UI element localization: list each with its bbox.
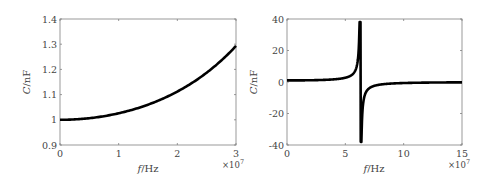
x-tick-label: 0 <box>57 148 63 159</box>
left-data-line <box>60 46 236 120</box>
left-y-axis-label: C/nF <box>21 70 32 94</box>
right-plot: 051015 -40-2002040 f/Hz C/nF ×107 <box>248 14 470 175</box>
y-tick-label: -20 <box>269 108 284 119</box>
left-y-ticks: 0.911.11.21.31.4 <box>42 14 236 151</box>
y-tick-label: 1.4 <box>42 14 57 25</box>
right-x-ticks: 051015 <box>284 19 468 159</box>
x-tick-label: 5 <box>342 148 348 159</box>
y-tick-label: 40 <box>272 14 284 25</box>
y-tick-label: 0.9 <box>42 140 57 151</box>
right-x-axis-label: f/Hz <box>362 163 384 174</box>
right-data-line <box>287 22 462 142</box>
y-tick-label: 0 <box>278 77 284 88</box>
left-plot: 0123 0.911.11.21.31.4 f/Hz C/nF ×107 <box>21 14 244 175</box>
y-tick-label: -40 <box>269 140 284 151</box>
y-tick-label: 1.2 <box>42 64 57 75</box>
y-tick-label: 1.1 <box>42 89 57 100</box>
left-x-ticks: 0123 <box>57 19 239 159</box>
left-plot-axes-box <box>60 19 236 145</box>
right-x-multiplier: ×107 <box>448 158 470 170</box>
x-tick-label: 2 <box>174 148 180 159</box>
y-tick-label: 20 <box>272 45 284 56</box>
x-tick-label: 1 <box>116 148 122 159</box>
x-tick-label: 3 <box>233 148 239 159</box>
x-tick-label: 10 <box>398 148 410 159</box>
y-tick-label: 1.3 <box>42 39 57 50</box>
right-y-axis-label: C/nF <box>248 70 259 94</box>
left-x-multiplier: ×107 <box>222 158 244 170</box>
x-tick-label: 0 <box>284 148 290 159</box>
left-x-axis-label: f/Hz <box>136 163 158 174</box>
y-tick-label: 1 <box>51 114 57 125</box>
figure: 0123 0.911.11.21.31.4 f/Hz C/nF ×107 051… <box>0 0 483 189</box>
